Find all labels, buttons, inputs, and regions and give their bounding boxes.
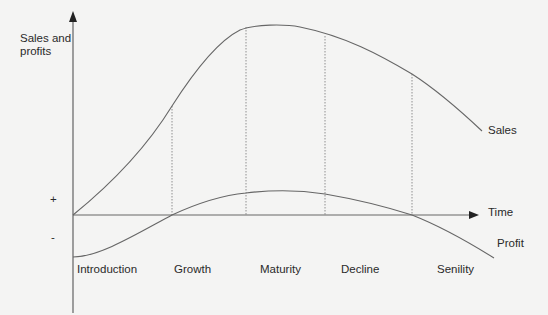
stage-label-senility: Senility — [437, 263, 474, 276]
stage-label-maturity: Maturity — [260, 263, 301, 276]
stage-label-decline: Decline — [341, 263, 379, 276]
plus-sign: + — [50, 193, 57, 206]
stage-label-introduction: Introduction — [77, 263, 137, 276]
y-axis-label-line1: Sales and — [20, 32, 71, 45]
sales-curve — [73, 25, 482, 215]
minus-sign: - — [51, 231, 55, 244]
y-axis-label-line2: profits — [20, 45, 71, 58]
y-axis-label: Sales and profits — [20, 32, 71, 58]
profit-curve — [73, 191, 494, 258]
y-axis-arrow-icon — [69, 11, 77, 22]
sales-label: Sales — [488, 124, 517, 137]
stage-boundaries — [172, 27, 412, 215]
profit-label: Profit — [497, 237, 524, 250]
x-axis-arrow-icon — [469, 211, 479, 219]
stage-label-growth: Growth — [174, 263, 211, 276]
x-axis-label: Time — [488, 206, 513, 219]
